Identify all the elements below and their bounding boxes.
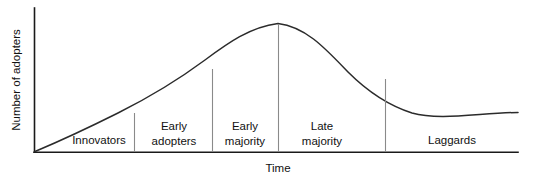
segment-label-early-majority-line1: Early	[232, 120, 258, 132]
adoption-curve-figure: Innovators Early adopters Early majority…	[0, 0, 539, 179]
segment-label-early-adopters-line1: Early	[161, 120, 187, 132]
segment-label-early-adopters-line2: adopters	[152, 135, 197, 147]
x-axis-label: Time	[265, 162, 290, 174]
segment-label-innovators: Innovators	[72, 134, 126, 146]
adoption-curve	[35, 24, 518, 152]
segment-label-laggards: Laggards	[428, 134, 476, 146]
segment-label-late-majority-line1: Late	[311, 120, 333, 132]
y-axis-label: Number of adopters	[10, 29, 22, 131]
segment-label-early-majority-line2: majority	[225, 135, 266, 147]
segment-label-late-majority-line2: majority	[302, 135, 343, 147]
